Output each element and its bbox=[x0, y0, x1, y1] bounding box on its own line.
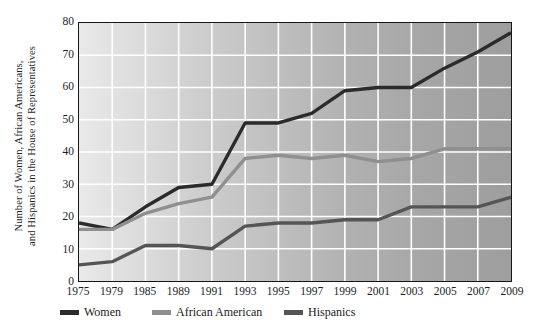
x-axis-tick-labels: 1975197919851989199119931995199719992001… bbox=[0, 285, 539, 303]
legend-item-african-american[interactable]: African American bbox=[152, 306, 262, 319]
series-line-women bbox=[79, 33, 511, 230]
y-axis-tick-labels: 01020304050607080 bbox=[50, 0, 74, 292]
x-axis-tick-label: 1991 bbox=[200, 285, 223, 297]
y-axis-tick-label: 60 bbox=[52, 81, 74, 93]
legend-label: African American bbox=[176, 306, 262, 319]
x-axis-tick-label: 2001 bbox=[367, 285, 390, 297]
legend-item-hispanics[interactable]: Hispanics bbox=[284, 306, 355, 319]
y-axis-title-line2: and Hispanics in the House of Representa… bbox=[25, 46, 38, 246]
x-axis-tick-label: 2003 bbox=[400, 285, 423, 297]
y-axis-title-line1: Number of Women, African Americans, bbox=[13, 61, 24, 232]
x-axis-tick-label: 1979 bbox=[100, 285, 123, 297]
x-axis-tick-label: 1997 bbox=[300, 285, 323, 297]
x-axis-tick-label: 1989 bbox=[167, 285, 190, 297]
y-axis-tick-label: 10 bbox=[52, 244, 74, 256]
legend-label: Hispanics bbox=[308, 306, 355, 319]
x-axis-tick-label: 2009 bbox=[501, 285, 524, 297]
x-axis-tick-label: 2007 bbox=[467, 285, 490, 297]
legend-swatch-icon bbox=[284, 310, 303, 315]
series-lines bbox=[79, 33, 511, 265]
y-axis-tick-label: 30 bbox=[52, 179, 74, 191]
y-axis-tick-label: 80 bbox=[52, 16, 74, 28]
x-axis-tick-label: 1985 bbox=[133, 285, 156, 297]
legend-label: Women bbox=[84, 306, 121, 319]
y-axis-tick-label: 20 bbox=[52, 211, 74, 223]
x-axis-tick-label: 1975 bbox=[67, 285, 90, 297]
x-axis-tick-label: 2005 bbox=[434, 285, 457, 297]
legend-item-women[interactable]: Women bbox=[60, 306, 121, 319]
legend-swatch-icon bbox=[60, 310, 79, 315]
series-line-african-american bbox=[79, 149, 511, 230]
y-axis-tick-label: 50 bbox=[52, 114, 74, 126]
y-axis-tick-label: 70 bbox=[52, 49, 74, 61]
x-axis-tick-label: 1999 bbox=[334, 285, 357, 297]
legend-swatch-icon bbox=[152, 310, 171, 315]
gridlines bbox=[79, 23, 511, 281]
plot-area bbox=[78, 22, 512, 282]
plot-svg bbox=[79, 23, 511, 281]
y-axis-tick-label: 40 bbox=[52, 146, 74, 158]
chart-legend: WomenAfrican AmericanHispanics bbox=[48, 306, 488, 326]
x-axis-tick-label: 1993 bbox=[233, 285, 256, 297]
chart-figure: Number of Women, African Americans, and … bbox=[0, 0, 539, 335]
y-axis-title: Number of Women, African Americans, and … bbox=[0, 0, 50, 292]
x-axis-tick-label: 1995 bbox=[267, 285, 290, 297]
